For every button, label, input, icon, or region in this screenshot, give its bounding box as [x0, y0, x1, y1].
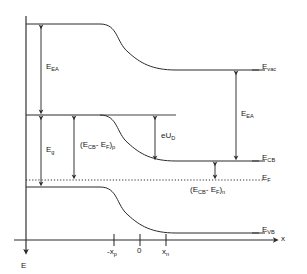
label-e-gap-sub: g [51, 149, 54, 155]
tick-label-xn-sub: n [166, 251, 169, 257]
label-ecb-ef-n-p1: (E [190, 185, 198, 194]
label-ecb-ef-p-s2: F [106, 144, 109, 150]
label-eud-sub: D [171, 135, 175, 141]
label-e-cb: ECB [262, 154, 275, 162]
label-axis-e: E [21, 262, 26, 270]
band-diagram-svg [0, 0, 307, 274]
e-cb-curve [26, 115, 265, 161]
axis-group [14, 16, 276, 252]
label-e-vac: Evac [262, 63, 276, 71]
band-diagram-figure: Evac ECB EF EVB EEA Eg (ECB- EF)p eUD EE… [0, 0, 307, 274]
label-e-ea-right-sub: EA [246, 113, 253, 119]
label-ecb-ef-n-s2: F [216, 189, 219, 195]
label-ecb-ef-n-p2: - E [206, 185, 216, 194]
tick-label-xn: xn [162, 248, 169, 256]
label-e-cb-sub: CB [267, 157, 275, 163]
label-ecb-ef-p-s1: CB [88, 144, 96, 150]
label-axis-e-text: E [21, 261, 26, 270]
label-ecb-ef-p: (ECB- EF)p [80, 141, 115, 149]
tick-label-minus-xp: -xp [107, 248, 117, 256]
label-e-f: EF [262, 174, 271, 182]
label-e-ea-right: EEA [241, 110, 254, 118]
label-eud: eUD [161, 132, 175, 140]
label-ecb-ef-n: (ECB- EF)n [190, 186, 225, 194]
label-eud-base: eU [161, 131, 171, 140]
label-axis-x: x [281, 235, 285, 243]
e-vac-curve [26, 24, 265, 70]
label-e-vb-sub: VB [267, 229, 274, 235]
label-ecb-ef-p-p2: - E [96, 140, 106, 149]
tick-label-zero: 0 [137, 247, 141, 255]
label-ecb-ef-p-s3: p [112, 144, 115, 150]
tick-label-minus-xp-base: -x [107, 247, 114, 256]
label-e-ea-left: EEA [46, 63, 59, 71]
label-e-f-sub: F [267, 177, 270, 183]
label-axis-x-text: x [281, 234, 285, 243]
label-e-gap: Eg [46, 146, 54, 154]
label-e-vb: EVB [262, 226, 275, 234]
e-vb-curve [26, 187, 265, 233]
tick-label-zero-text: 0 [137, 246, 141, 255]
label-e-vac-sub: vac [267, 66, 276, 72]
label-ecb-ef-n-s1: CB [198, 189, 206, 195]
tick-label-minus-xp-sub: p [114, 251, 117, 257]
label-ecb-ef-p-p1: (E [80, 140, 88, 149]
label-e-ea-left-sub: EA [51, 66, 58, 72]
label-ecb-ef-n-s3: n [222, 189, 225, 195]
